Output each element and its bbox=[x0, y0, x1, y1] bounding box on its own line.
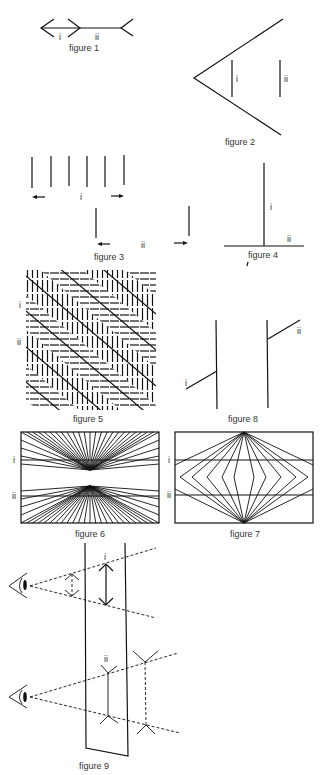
figure-7: i ii figure 7 bbox=[167, 432, 313, 539]
figure-8: i ii figure 8 bbox=[185, 320, 301, 424]
figure-3: i ii figure 3 bbox=[32, 155, 189, 262]
figure-1-caption: figure 1 bbox=[69, 43, 99, 53]
figure-3-caption: figure 3 bbox=[94, 252, 124, 262]
label-i: i bbox=[270, 202, 272, 212]
label-ii: ii bbox=[141, 240, 145, 250]
label-i: i bbox=[185, 378, 187, 388]
figure-4: i ii figure 4 bbox=[224, 163, 304, 266]
label-i: i bbox=[59, 32, 61, 42]
label-ii: ii bbox=[167, 490, 171, 500]
figure-5-caption: figure 5 bbox=[73, 414, 103, 424]
label-ii: ii bbox=[12, 491, 16, 501]
illusion-plate: i ii figure 1 i ii figure 2 i ii figure … bbox=[0, 0, 320, 775]
eye-icon-upper bbox=[9, 573, 27, 598]
label-i: i bbox=[13, 455, 15, 465]
figure-6: i ii figure 6 bbox=[12, 432, 159, 539]
figure-9-caption: figure 9 bbox=[79, 761, 109, 771]
label-i: i bbox=[104, 552, 106, 562]
label-ii: ii bbox=[287, 234, 291, 244]
figure-2-caption: figure 2 bbox=[225, 137, 255, 147]
figure-1: i ii figure 1 bbox=[41, 19, 133, 53]
figure-4-caption: figure 4 bbox=[248, 250, 278, 260]
figure-8-caption: figure 8 bbox=[228, 414, 258, 424]
label-ii: ii bbox=[284, 74, 288, 84]
label-i: i bbox=[80, 192, 82, 202]
figure-7-caption: figure 7 bbox=[230, 529, 260, 539]
figure-9: i ii figure 9 bbox=[9, 543, 180, 771]
eye-icon-lower bbox=[9, 685, 27, 708]
label-i: i bbox=[168, 455, 170, 465]
figure-6-caption: figure 6 bbox=[75, 529, 105, 539]
label-ii: ii bbox=[104, 654, 108, 664]
figure-2: i ii figure 2 bbox=[194, 19, 288, 147]
label-ii: ii bbox=[17, 337, 21, 347]
label-ii: ii bbox=[95, 32, 99, 42]
label-ii: ii bbox=[297, 326, 301, 336]
label-i: i bbox=[19, 300, 21, 310]
label-i: i bbox=[236, 74, 238, 84]
